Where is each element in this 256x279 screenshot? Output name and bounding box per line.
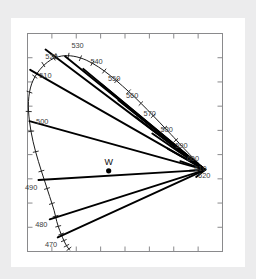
wavelength-label-470: 470 [45, 240, 57, 249]
wavelength-label-550: 550 [108, 74, 120, 83]
wavelength-label-580: 580 [161, 125, 173, 134]
wavelength-label-530: 530 [71, 41, 83, 50]
wavelength-label-600: 600 [187, 154, 199, 163]
white-point-dot [106, 168, 111, 173]
wavelength-label-570: 570 [144, 109, 156, 118]
wavelength-label-620: 620 [198, 171, 210, 180]
plot-frame [28, 34, 223, 252]
axis-ticks [28, 34, 223, 252]
white-point-label: W [104, 157, 113, 167]
wavelength-label-590: 590 [175, 141, 187, 150]
wavelength-label-540: 540 [90, 57, 102, 66]
wavelength-label-490: 490 [25, 183, 37, 192]
chromaticity-diagram-svg: 4704804905005105205305405505605705805906… [0, 0, 256, 279]
wavelength-label-510: 510 [39, 71, 51, 80]
wavelength-label-560: 560 [126, 91, 138, 100]
wavelength-label-520: 520 [45, 52, 57, 61]
figure-root: 4704804905005105205305405505605705805906… [0, 0, 256, 279]
wavelength-label-500: 500 [36, 117, 48, 126]
white-point-marker: W [104, 157, 113, 174]
chart-canvas: 4704804905005105205305405505605705805906… [0, 0, 256, 279]
wavelength-label-480: 480 [35, 220, 47, 229]
locus-wavelength-ticks [26, 53, 178, 251]
